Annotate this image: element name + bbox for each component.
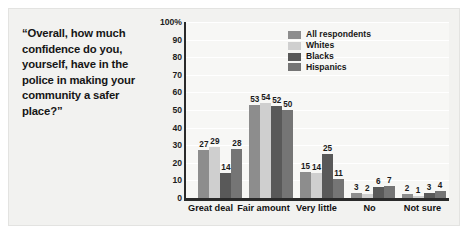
bar[interactable] bbox=[311, 173, 322, 198]
bar[interactable] bbox=[435, 191, 446, 198]
bar-wrapper: 4 bbox=[435, 22, 446, 198]
legend-item[interactable]: Blacks bbox=[288, 52, 371, 62]
bar-value-label: 14 bbox=[221, 163, 230, 172]
x-axis-category-label: Very little bbox=[290, 203, 343, 213]
x-axis-category-label: Not sure bbox=[396, 203, 449, 213]
bar-value-label: 54 bbox=[261, 93, 270, 102]
bar[interactable] bbox=[249, 105, 260, 198]
bar[interactable] bbox=[322, 154, 333, 198]
bar[interactable] bbox=[220, 173, 231, 198]
question-text: “Overall, how much confidence do you, yo… bbox=[22, 26, 154, 120]
legend-label: Whites bbox=[306, 41, 334, 50]
bar-wrapper: 1 bbox=[413, 22, 424, 198]
bar-value-label: 28 bbox=[232, 139, 241, 148]
bar-value-label: 27 bbox=[199, 140, 208, 149]
bar[interactable] bbox=[271, 106, 282, 198]
bar-wrapper: 53 bbox=[249, 22, 260, 198]
bar-wrapper: 28 bbox=[231, 22, 242, 198]
bar-value-label: 14 bbox=[312, 163, 321, 172]
y-axis-tick-label: 50 bbox=[172, 105, 182, 115]
y-axis-tick-label: 20 bbox=[172, 158, 182, 168]
legend-swatch bbox=[288, 53, 301, 61]
bar-wrapper: 7 bbox=[384, 22, 395, 198]
y-axis-tick-label: 80 bbox=[172, 52, 182, 62]
bar[interactable] bbox=[209, 147, 220, 198]
legend-label: Hispanics bbox=[306, 63, 347, 72]
bar-wrapper: 52 bbox=[271, 22, 282, 198]
bar[interactable] bbox=[384, 186, 395, 198]
bar[interactable] bbox=[373, 187, 384, 198]
y-axis-tick-label: 30 bbox=[172, 140, 182, 150]
bar[interactable] bbox=[300, 172, 311, 198]
legend-label: Blacks bbox=[306, 52, 334, 61]
legend-swatch bbox=[288, 42, 301, 50]
bar[interactable] bbox=[198, 150, 209, 198]
legend-item[interactable]: Whites bbox=[288, 41, 371, 51]
x-axis-line bbox=[184, 198, 449, 201]
y-axis-tick-label: 90 bbox=[172, 35, 182, 45]
y-axis-tick-label: 60 bbox=[172, 87, 182, 97]
bar-wrapper: 2 bbox=[402, 22, 413, 198]
bar-value-label: 11 bbox=[334, 169, 343, 178]
bar-wrapper: 14 bbox=[220, 22, 231, 198]
y-axis-tick-label: 70 bbox=[172, 70, 182, 80]
bar-value-label: 3 bbox=[427, 183, 432, 192]
bar-value-label: 2 bbox=[365, 184, 370, 193]
legend-item[interactable]: All respondents bbox=[288, 30, 371, 40]
x-axis-category-label: Great deal bbox=[184, 203, 237, 213]
bar-value-label: 2 bbox=[405, 184, 410, 193]
y-axis-tick-label: 10 bbox=[172, 175, 182, 185]
bar-value-label: 6 bbox=[376, 177, 381, 186]
bar[interactable] bbox=[282, 110, 293, 198]
legend-label: All respondents bbox=[306, 30, 371, 39]
x-axis-category-label: Fair amount bbox=[237, 203, 290, 213]
bar-value-label: 7 bbox=[387, 176, 392, 185]
bar-value-label: 1 bbox=[416, 186, 421, 195]
bar[interactable] bbox=[333, 179, 344, 198]
y-axis-tick-label: 40 bbox=[172, 123, 182, 133]
bar-value-label: 25 bbox=[323, 144, 332, 153]
legend-swatch bbox=[288, 63, 301, 71]
bar[interactable] bbox=[231, 149, 242, 198]
chart-figure: “Overall, how much confidence do you, yo… bbox=[0, 0, 468, 240]
bar-value-label: 3 bbox=[354, 183, 359, 192]
bar-wrapper: 6 bbox=[373, 22, 384, 198]
y-axis-tick-label: 100% bbox=[160, 17, 182, 27]
bar-value-label: 53 bbox=[250, 95, 259, 104]
bar-group: 2134 bbox=[398, 22, 449, 198]
bar-value-label: 29 bbox=[210, 137, 219, 146]
legend-item[interactable]: Hispanics bbox=[288, 63, 371, 73]
bar[interactable] bbox=[260, 103, 271, 198]
bar-wrapper: 29 bbox=[209, 22, 220, 198]
legend-swatch bbox=[288, 31, 301, 39]
y-axis-tick-label: 0 bbox=[177, 193, 182, 203]
bar-wrapper: 54 bbox=[260, 22, 271, 198]
bar-value-label: 50 bbox=[283, 100, 292, 109]
bar-value-label: 52 bbox=[272, 96, 281, 105]
bar-value-label: 15 bbox=[301, 162, 310, 171]
x-axis-labels: Great dealFair amountVery littleNoNot su… bbox=[184, 203, 449, 213]
bar-group: 27291428 bbox=[195, 22, 246, 198]
bar-wrapper: 3 bbox=[424, 22, 435, 198]
chart-legend: All respondentsWhitesBlacksHispanics bbox=[288, 30, 371, 72]
bar-value-label: 4 bbox=[438, 181, 443, 190]
x-axis-category-label: No bbox=[343, 203, 396, 213]
bar-wrapper: 27 bbox=[198, 22, 209, 198]
